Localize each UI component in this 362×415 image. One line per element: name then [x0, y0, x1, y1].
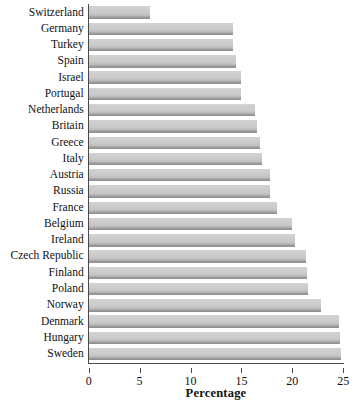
- bar-row: Netherlands: [89, 103, 344, 119]
- bar: [89, 348, 342, 360]
- bar-category-label: France: [52, 199, 88, 215]
- bar: [89, 299, 321, 311]
- bar: [89, 71, 242, 83]
- bar-category-label: Sweden: [47, 345, 88, 361]
- bar: [89, 153, 262, 165]
- bar-row: France: [89, 200, 344, 216]
- bar-row: Greece: [89, 135, 344, 151]
- bar-row: Norway: [89, 298, 344, 314]
- bar-category-label: Ireland: [51, 231, 89, 247]
- x-tick: [241, 368, 242, 373]
- bar-row: Sweden: [89, 347, 344, 363]
- bar: [89, 120, 257, 132]
- bar-category-label: Germany: [41, 20, 89, 36]
- bar: [89, 104, 255, 116]
- bar-category-label: Belgium: [44, 215, 89, 231]
- bar-row: Finland: [89, 265, 344, 281]
- bar: [89, 55, 237, 67]
- bar-row: Italy: [89, 151, 344, 167]
- bar: [89, 137, 260, 149]
- bar-row: Denmark: [89, 314, 344, 330]
- bar-category-label: Turkey: [51, 36, 89, 52]
- bar: [89, 23, 234, 35]
- bar-category-label: Norway: [47, 296, 89, 312]
- bar-row: Britain: [89, 119, 344, 135]
- x-tick: [140, 368, 141, 373]
- bar-category-label: Netherlands: [28, 101, 89, 117]
- bar-category-label: Finland: [49, 264, 89, 280]
- bar: [89, 218, 293, 230]
- bar-category-label: Russia: [53, 182, 89, 198]
- bar-row: Israel: [89, 70, 344, 86]
- bar: [89, 234, 296, 246]
- bar: [89, 6, 150, 18]
- bar-row: Belgium: [89, 216, 344, 232]
- bar-category-label: Greece: [51, 134, 89, 150]
- bar-category-label: Italy: [63, 150, 89, 166]
- bar-row: Spain: [89, 54, 344, 70]
- bar-category-label: Spain: [57, 52, 88, 68]
- bar-row: Poland: [89, 282, 344, 298]
- bar-category-label: Portugal: [45, 85, 89, 101]
- bar-row: Czech Republic: [89, 249, 344, 265]
- bar: [89, 283, 308, 295]
- bar: [89, 250, 306, 262]
- bar-category-label: Switzerland: [29, 4, 89, 20]
- bar: [89, 169, 270, 181]
- bar-row: Austria: [89, 168, 344, 184]
- bar: [89, 185, 270, 197]
- bar-category-label: Hungary: [43, 329, 88, 345]
- x-axis-title: Percentage: [89, 386, 344, 401]
- bar: [89, 315, 340, 327]
- bar-row: Switzerland: [89, 5, 344, 21]
- bar: [89, 202, 277, 214]
- bar: [89, 332, 341, 344]
- bar-row: Portugal: [89, 86, 344, 102]
- plot-area: SwitzerlandGermanyTurkeySpainIsraelPortu…: [89, 5, 344, 363]
- bar: [89, 39, 234, 51]
- bar-category-label: Denmark: [41, 313, 89, 329]
- x-tick: [191, 368, 192, 373]
- bar: [89, 88, 242, 100]
- bar-category-label: Poland: [52, 280, 89, 296]
- bar-chart: SwitzerlandGermanyTurkeySpainIsraelPortu…: [0, 0, 362, 415]
- bar-category-label: Britain: [52, 117, 89, 133]
- bar-category-label: Austria: [50, 166, 89, 182]
- bar-row: Germany: [89, 21, 344, 37]
- bar-rows: SwitzerlandGermanyTurkeySpainIsraelPortu…: [89, 5, 344, 363]
- x-tick: [89, 368, 90, 373]
- bar-row: Turkey: [89, 38, 344, 54]
- x-tick: [343, 368, 344, 373]
- bar-category-label: Israel: [58, 69, 89, 85]
- bar-row: Ireland: [89, 233, 344, 249]
- x-tick: [292, 368, 293, 373]
- bar-category-label: Czech Republic: [11, 247, 89, 263]
- x-axis-line: [88, 363, 344, 364]
- bar-row: Hungary: [89, 330, 344, 346]
- bar-row: Russia: [89, 184, 344, 200]
- bar: [89, 267, 307, 279]
